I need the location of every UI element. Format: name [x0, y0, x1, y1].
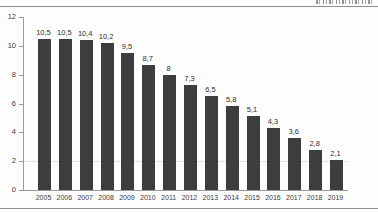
y-axis-tick-label: 6 — [0, 100, 16, 108]
y-axis-tick-label: 12 — [0, 13, 16, 21]
y-axis-tick-label: 0 — [0, 186, 16, 194]
y-axis-tick-label: 2 — [0, 157, 16, 165]
bar-2010 — [142, 65, 155, 190]
bar-value-label-2010: 8,7 — [136, 55, 160, 63]
bar-2009 — [121, 53, 134, 190]
screenshot-root: 02468101210,5200510,5200610,4200710,2200… — [0, 0, 378, 213]
bar-value-label-2017: 3,6 — [282, 128, 306, 136]
bar-value-label-2019: 2,1 — [323, 150, 347, 158]
bar-2013 — [205, 96, 218, 190]
bar-value-label-2015: 5,1 — [240, 106, 264, 114]
bottom-divider-line — [0, 208, 378, 209]
bar-value-label-2016: 4,3 — [261, 118, 285, 126]
bar-2007 — [80, 40, 93, 190]
y-axis-tick — [19, 17, 23, 18]
bar-2005 — [38, 39, 51, 190]
bar-value-label-2009: 9,5 — [115, 43, 139, 51]
bar-value-label-2012: 7,3 — [177, 75, 201, 83]
y-axis-tick-label: 8 — [0, 71, 16, 79]
y-axis-tick-label: 4 — [0, 128, 16, 136]
y-axis-tick — [19, 161, 23, 162]
bar-2014 — [226, 106, 239, 190]
y-axis-tick — [19, 190, 23, 191]
y-axis-tick — [19, 46, 23, 47]
bar-2012 — [184, 85, 197, 190]
bar-2016 — [267, 128, 280, 190]
bar-2018 — [309, 150, 322, 190]
bar-2017 — [288, 138, 301, 190]
y-axis-tick — [19, 104, 23, 105]
bar-2015 — [247, 116, 260, 190]
bar-value-label-2014: 5,8 — [219, 96, 243, 104]
y-axis-tick — [19, 75, 23, 76]
y-axis-tick — [19, 132, 23, 133]
bar-2006 — [59, 39, 72, 190]
x-axis-label-2019: 2019 — [322, 194, 348, 202]
bar-value-label-2018: 2,8 — [303, 140, 327, 148]
bar-value-label-2008: 10,2 — [94, 33, 118, 41]
bar-chart: 02468101210,5200510,5200610,4200710,2200… — [0, 0, 378, 213]
y-axis-tick-label: 10 — [0, 42, 16, 50]
bar-value-label-2013: 6,5 — [198, 86, 222, 94]
bar-value-label-2011: 8 — [157, 65, 181, 73]
bar-2011 — [163, 75, 176, 190]
plot-area — [23, 17, 348, 191]
bar-2019 — [330, 160, 343, 190]
bar-2008 — [101, 43, 114, 190]
